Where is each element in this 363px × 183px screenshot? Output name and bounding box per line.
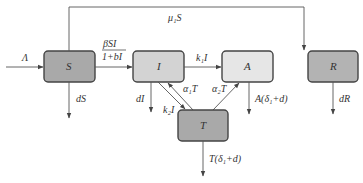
alpha2T-label: α₂T bbox=[212, 83, 228, 94]
node-I: I bbox=[133, 51, 184, 82]
node-S-label: S bbox=[66, 60, 72, 72]
T-outflow-label: T(δ₁+d) bbox=[209, 153, 242, 165]
node-R-label: R bbox=[329, 60, 337, 72]
alpha1T-label: α₁T bbox=[183, 83, 199, 94]
node-T: T bbox=[178, 110, 228, 141]
beta-numerator: βSI bbox=[102, 38, 117, 49]
node-A-label: A bbox=[243, 60, 251, 72]
node-A: A bbox=[222, 51, 273, 82]
A-outflow-label: A(δ₁+d) bbox=[254, 93, 288, 105]
beta-denominator: 1+bI bbox=[102, 51, 123, 62]
mu1S-label: μ₁S bbox=[167, 12, 182, 23]
node-R: R bbox=[308, 51, 358, 82]
lambda-label: Λ bbox=[21, 52, 28, 63]
dR-label: dR bbox=[339, 93, 350, 104]
node-S: S bbox=[44, 51, 95, 82]
k1I-label: k₁I bbox=[196, 52, 208, 63]
node-T-label: T bbox=[200, 119, 207, 131]
k2I-label: k₂I bbox=[163, 104, 175, 115]
dS-label: dS bbox=[76, 93, 86, 104]
dI-label: dI bbox=[136, 93, 145, 104]
model-diagram: Λ S μ₁S βSI 1+bI dS I k₁I dI k₂I α₁T A α… bbox=[0, 0, 363, 183]
